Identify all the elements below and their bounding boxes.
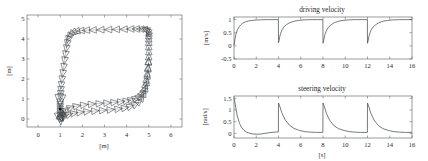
steering-velocity-x-axis-label: [s] — [319, 151, 326, 159]
y-ticklabel: 3 — [21, 55, 25, 62]
x-ticklabel: 0 — [232, 62, 236, 69]
x-ticklabel: 12 — [364, 62, 371, 69]
x-ticklabel: 10 — [342, 62, 349, 69]
x-ticklabel: 6 — [299, 62, 303, 69]
y-ticklabel: 0.5 — [223, 118, 232, 125]
x-ticklabel: 5 — [147, 131, 151, 138]
x-ticklabel: 8 — [321, 141, 325, 148]
y-ticklabel: 0.5 — [223, 29, 232, 36]
steering-velocity-title: steering velocity — [298, 85, 346, 93]
y-ticklabel: 5 — [21, 15, 25, 22]
x-ticklabel: 12 — [364, 141, 371, 148]
x-ticklabel: 14 — [386, 141, 393, 148]
steering-velocity-x-ticklabels: 0246810121416 — [232, 141, 416, 148]
trajectory-polyline — [60, 29, 149, 118]
trajectory-plot-panel: 0123456 012345 [m] [m] — [0, 0, 200, 161]
steering-velocity-panel: steering velocity 0246810121416 00.511.5… — [200, 80, 428, 161]
y-ticklabel: 1 — [228, 16, 231, 23]
x-ticklabel: 6 — [299, 141, 303, 148]
steering-velocity-y-ticklabels: 00.511.5 — [223, 95, 232, 137]
x-ticklabel: 1 — [59, 131, 62, 138]
trajectory-y-ticklabels: 012345 — [21, 15, 25, 122]
driving-velocity-panel: driving velocity 0246810121416 -0.500.51… — [200, 0, 428, 82]
driving-velocity-curve — [234, 20, 412, 46]
x-ticklabel: 2 — [255, 62, 258, 69]
y-ticklabel: 1.5 — [223, 95, 232, 102]
trajectory-x-ticklabels: 0123456 — [36, 131, 173, 138]
x-ticklabel: 2 — [81, 131, 84, 138]
driving-velocity-y-axis-label: [m/s] — [202, 31, 210, 45]
x-ticklabel: 3 — [103, 131, 107, 138]
y-ticklabel: -0.5 — [221, 55, 232, 62]
y-ticklabel: 1 — [228, 106, 231, 113]
steering-velocity-curve — [234, 98, 412, 134]
x-ticklabel: 10 — [342, 141, 349, 148]
x-ticklabel: 16 — [409, 62, 416, 69]
x-ticklabel: 8 — [321, 62, 325, 69]
driving-velocity-svg: driving velocity 0246810121416 -0.500.51… — [200, 0, 428, 82]
x-ticklabel: 0 — [36, 131, 40, 138]
steering-velocity-y-axis-label: [rad/s] — [201, 108, 209, 125]
trajectory-start-marker — [59, 108, 62, 111]
x-ticklabel: 4 — [277, 141, 281, 148]
x-ticklabel: 0 — [232, 141, 236, 148]
trajectory-path — [60, 29, 149, 118]
trajectory-y-axis-label: [m] — [5, 66, 13, 76]
y-ticklabel: 4 — [21, 35, 25, 42]
y-ticklabel: 0 — [228, 130, 232, 137]
x-ticklabel: 2 — [255, 141, 258, 148]
trajectory-x-axis-label: [m] — [99, 142, 109, 150]
y-ticklabel: 0 — [21, 115, 25, 122]
y-ticklabel: 1 — [21, 95, 24, 102]
matlab-figure: 0123456 012345 [m] [m] driving velocity … — [0, 0, 428, 161]
x-ticklabel: 14 — [386, 62, 393, 69]
y-ticklabel: 2 — [21, 75, 24, 82]
driving-velocity-y-ticklabels: -0.500.51 — [221, 16, 232, 62]
x-ticklabel: 16 — [409, 141, 416, 148]
y-ticklabel: 0 — [228, 42, 232, 49]
driving-velocity-title: driving velocity — [299, 6, 345, 14]
x-ticklabel: 4 — [277, 62, 281, 69]
driving-velocity-x-ticklabels: 0246810121416 — [232, 62, 416, 69]
x-ticklabel: 4 — [125, 131, 129, 138]
trajectory-svg: 0123456 012345 [m] [m] — [0, 0, 200, 161]
x-ticklabel: 6 — [169, 131, 173, 138]
steering-velocity-svg: steering velocity 0246810121416 00.511.5… — [200, 80, 428, 161]
